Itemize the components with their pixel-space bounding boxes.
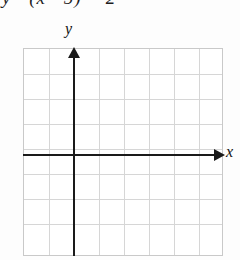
- grid-line-horizontal: [24, 74, 222, 75]
- equation-equals: =: [11, 0, 29, 8]
- coordinate-grid: [23, 48, 223, 256]
- grid-line-horizontal: [24, 174, 222, 175]
- equation-close-paren: ): [74, 0, 81, 8]
- equation-minus-second: −: [88, 0, 106, 8]
- grid-line-horizontal: [24, 224, 222, 225]
- y-axis-label: y: [65, 20, 72, 38]
- x-axis-line: [23, 154, 216, 156]
- x-axis-label: x: [226, 143, 233, 161]
- equation-constant-second: 2: [106, 0, 117, 8]
- grid-line-horizontal: [24, 124, 222, 125]
- x-axis-arrow-icon: [214, 149, 225, 161]
- equation-variable: x: [36, 0, 45, 8]
- y-axis-arrow-icon: [68, 47, 80, 58]
- worksheet-figure: y=(x−5)2−2 y x: [0, 0, 240, 260]
- grid-line-horizontal: [24, 199, 222, 200]
- grid-line-horizontal: [24, 99, 222, 100]
- equation-minus-first: −: [46, 0, 64, 8]
- y-axis-line: [73, 58, 75, 256]
- equation-constant-first: 5: [64, 0, 75, 8]
- grid-lines: [24, 49, 222, 255]
- equation-strip: y=(x−5)2−2: [0, 0, 240, 13]
- grid-line-horizontal: [24, 149, 222, 150]
- equation-text: y=(x−5)2−2: [2, 0, 116, 9]
